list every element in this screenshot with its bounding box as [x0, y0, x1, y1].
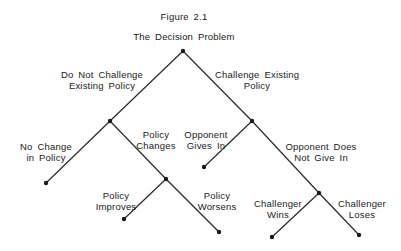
label-line: Policy — [215, 80, 299, 91]
figure-number: Figure 2.1 — [160, 11, 208, 22]
node-challenger-loses — [357, 233, 361, 237]
label-opponent-not-give-in: Opponent Does Not Give In — [283, 141, 359, 163]
label-line: Policy — [136, 129, 176, 140]
label-line: Changes — [136, 140, 176, 151]
node-do-not-challenge — [108, 119, 112, 123]
figure-title: The Decision Problem — [130, 31, 238, 42]
label-line: Opponent Does — [283, 141, 359, 152]
label-line: Challenger — [334, 198, 390, 209]
label-line: Challenge Existing — [215, 69, 299, 80]
label-policy-changes: Policy Changes — [136, 129, 176, 151]
label-line: Opponent — [183, 129, 229, 140]
label-line: Policy — [91, 190, 141, 201]
node-challenge — [250, 119, 254, 123]
label-line: Wins — [250, 209, 306, 220]
label-line: in Policy — [18, 152, 74, 163]
label-line: Do Not Challenge — [60, 69, 144, 80]
node-policy-changes — [164, 177, 168, 181]
node-policy-improves — [122, 217, 126, 221]
label-challenger-loses: Challenger Loses — [334, 198, 390, 220]
node-challenger-wins — [270, 235, 274, 239]
label-challenge: Challenge Existing Policy — [215, 69, 299, 91]
label-line: Policy — [192, 190, 242, 201]
label-line: No Change — [18, 141, 74, 152]
label-policy-improves: Policy Improves — [91, 190, 141, 212]
label-line: Existing Policy — [60, 80, 144, 91]
label-opponent-gives-in: Opponent Gives In — [183, 129, 229, 151]
label-line: Challenger — [250, 198, 306, 209]
node-opponent-not-give-in — [317, 191, 321, 195]
node-root — [181, 49, 185, 53]
label-line: Improves — [91, 201, 141, 212]
label-line: Not Give In — [283, 152, 359, 163]
label-challenger-wins: Challenger Wins — [250, 198, 306, 220]
label-line: Gives In — [183, 140, 229, 151]
label-policy-worsens: Policy Worsens — [192, 190, 242, 212]
label-line: Loses — [334, 209, 390, 220]
label-do-not-challenge: Do Not Challenge Existing Policy — [60, 69, 144, 91]
label-no-change: No Change in Policy — [18, 141, 74, 163]
node-opponent-gives-in — [202, 165, 206, 169]
label-line: Worsens — [192, 201, 242, 212]
node-no-change — [44, 181, 48, 185]
node-policy-worsens — [217, 230, 221, 234]
